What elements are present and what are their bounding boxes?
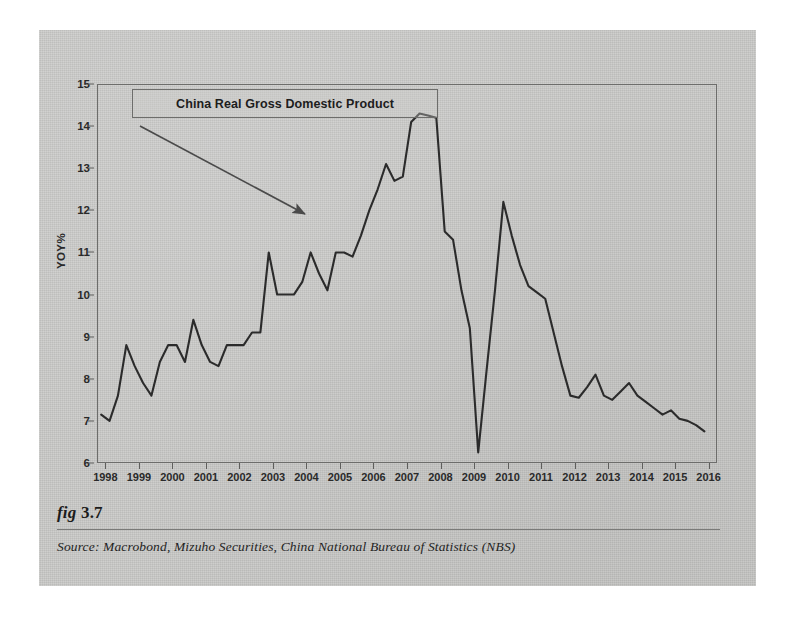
- scanned-figure-page: YOY% 6789101112131415 199819992000200120…: [0, 0, 795, 621]
- y-tick-mark: [88, 378, 94, 379]
- caption-divider: [57, 529, 720, 530]
- y-tick-label: 13: [64, 162, 90, 174]
- scan-page-area: YOY% 6789101112131415 199819992000200120…: [39, 30, 756, 586]
- x-tick-mark: [172, 463, 173, 469]
- chart-title-legend-box: China Real Gross Domestic Product: [132, 89, 438, 118]
- x-tick-mark: [541, 463, 542, 469]
- y-tick-mark: [88, 84, 94, 85]
- x-tick-mark: [709, 463, 710, 469]
- y-tick-label: 6: [64, 457, 90, 469]
- figure-caption-block: fig 3.7 Source: Macrobond, Mizuho Securi…: [57, 503, 737, 555]
- x-tick-mark: [273, 463, 274, 469]
- x-tick-mark: [407, 463, 408, 469]
- x-tick-mark: [139, 463, 140, 469]
- x-tick-mark: [508, 463, 509, 469]
- y-tick-mark: [88, 294, 94, 295]
- y-tick-mark: [88, 210, 94, 211]
- y-tick-label: 7: [64, 415, 90, 427]
- annotation-arrow-icon: [132, 118, 392, 228]
- x-tick-mark: [306, 463, 307, 469]
- x-tick-mark: [608, 463, 609, 469]
- y-tick-label: 10: [64, 289, 90, 301]
- x-tick-mark: [206, 463, 207, 469]
- y-tick-label: 9: [64, 331, 90, 343]
- x-tick-mark: [239, 463, 240, 469]
- y-tick-label: 14: [64, 120, 90, 132]
- figure-number: fig 3.7: [57, 503, 737, 523]
- x-tick-label: 2016: [686, 471, 732, 483]
- y-tick-mark: [88, 168, 94, 169]
- y-tick-label: 11: [64, 246, 90, 258]
- y-tick-label: 8: [64, 373, 90, 385]
- y-axis-ticks: 6789101112131415: [57, 84, 90, 463]
- y-tick-label: 12: [64, 204, 90, 216]
- y-tick-mark: [88, 463, 94, 464]
- x-axis-ticks: 1998199920002001200220032004200520062007…: [97, 463, 717, 493]
- x-tick-mark: [474, 463, 475, 469]
- figure-number-value: 3.7: [81, 503, 103, 522]
- x-tick-mark: [642, 463, 643, 469]
- x-tick-mark: [105, 463, 106, 469]
- x-tick-mark: [441, 463, 442, 469]
- x-tick-mark: [675, 463, 676, 469]
- figure-number-prefix: fig: [57, 503, 76, 522]
- y-tick-mark: [88, 420, 94, 421]
- y-tick-mark: [88, 336, 94, 337]
- y-tick-mark: [88, 126, 94, 127]
- y-tick-label: 15: [64, 78, 90, 90]
- x-tick-mark: [575, 463, 576, 469]
- x-tick-mark: [340, 463, 341, 469]
- y-tick-mark: [88, 252, 94, 253]
- figure-source-text: Source: Macrobond, Mizuho Securities, Ch…: [57, 539, 737, 555]
- x-tick-mark: [373, 463, 374, 469]
- chart-title-label: China Real Gross Domestic Product: [176, 97, 394, 111]
